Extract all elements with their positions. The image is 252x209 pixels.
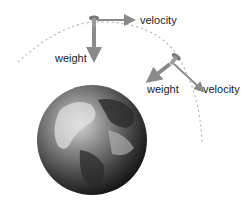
velocity-label-right: velocity [203, 83, 240, 95]
weight-label-right: weight [147, 83, 179, 95]
velocity-label-top: velocity [140, 14, 177, 26]
earth-globe [37, 85, 147, 195]
weight-arrow-right [152, 64, 170, 78]
satellite-top-icon [89, 16, 99, 28]
weight-label-top: weight [55, 52, 87, 64]
orbit-diagram: velocity weight weight velocity [0, 0, 252, 209]
